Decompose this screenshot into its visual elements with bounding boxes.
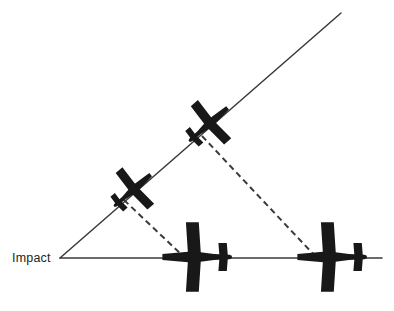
projection-line-upper [202, 136, 316, 257]
impact-geometry-diagram: Impact [0, 0, 394, 311]
aircraft-plan-right [297, 222, 366, 291]
aircraft-group [98, 89, 367, 292]
flight-path-climb-line [60, 13, 341, 258]
aircraft-plan-center [162, 222, 231, 291]
aircraft-climbing-lower [98, 156, 166, 224]
projection-line-lower [124, 200, 184, 257]
diagram-canvas: Impact [0, 0, 394, 311]
projection-lines [124, 136, 316, 257]
impact-label: Impact [12, 251, 51, 265]
